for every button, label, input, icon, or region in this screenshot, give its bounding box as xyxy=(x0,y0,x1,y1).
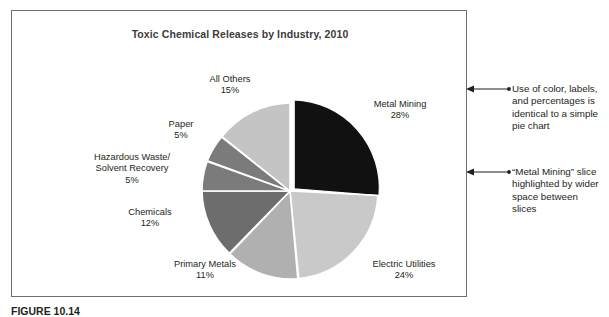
annotation-arrow-icon-2 xyxy=(466,167,512,177)
pie-label-primary-metals-pct: 11% xyxy=(146,270,264,281)
annotation-exploded-slice: “Metal Mining” slice highlighted by wide… xyxy=(512,166,604,216)
pie-label-hazardous-waste-line1: Hazardous Waste/ xyxy=(60,152,204,163)
figure-root: Toxic Chemical Releases by Industry, 201… xyxy=(0,0,609,317)
figure-caption: FIGURE 10.14 xyxy=(11,305,601,317)
pie-label-hazardous-waste-pct: 5% xyxy=(60,175,204,186)
pie-label-electric-utilities-pct: 24% xyxy=(342,270,466,281)
pie-label-chemicals: Chemicals 12% xyxy=(102,207,198,230)
pie-label-electric-utilities-name: Electric Utilities xyxy=(342,259,466,270)
pie-label-hazardous-waste: Hazardous Waste/ Solvent Recovery 5% xyxy=(60,152,204,186)
pie-label-hazardous-waste-line2: Solvent Recovery xyxy=(60,163,204,174)
figure-caption-number: FIGURE 10.14 xyxy=(11,305,80,317)
pie-label-electric-utilities: Electric Utilities 24% xyxy=(342,259,466,282)
pie-chart: Metal Mining 28% Electric Utilities 24% … xyxy=(12,11,468,298)
pie-label-primary-metals-name: Primary Metals xyxy=(146,259,264,270)
pie-label-all-others-name: All Others xyxy=(188,74,272,85)
pie-label-all-others: All Others 15% xyxy=(188,74,272,97)
chart-frame: Toxic Chemical Releases by Industry, 201… xyxy=(11,10,467,297)
pie-label-paper-pct: 5% xyxy=(148,130,214,141)
pie-label-chemicals-pct: 12% xyxy=(102,218,198,229)
pie-label-metal-mining-pct: 28% xyxy=(348,110,452,121)
pie-label-paper-name: Paper xyxy=(148,119,214,130)
pie-label-primary-metals: Primary Metals 11% xyxy=(146,259,264,282)
pie-label-paper: Paper 5% xyxy=(148,119,214,142)
pie-label-all-others-pct: 15% xyxy=(188,85,272,96)
annotation-color-labels: Use of color, labels, and percentages is… xyxy=(512,83,604,133)
pie-label-metal-mining: Metal Mining 28% xyxy=(348,99,452,122)
pie-label-chemicals-name: Chemicals xyxy=(102,207,198,218)
annotation-arrow-icon-1 xyxy=(466,84,512,94)
pie-label-metal-mining-name: Metal Mining xyxy=(348,99,452,110)
